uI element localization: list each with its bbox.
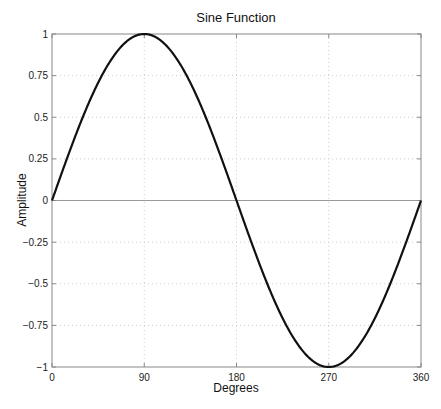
x-tick-label: 270: [320, 372, 337, 383]
y-tick-label: 0.25: [29, 153, 49, 164]
y-tick-label: 0: [42, 195, 48, 206]
x-axis-label: Degrees: [213, 381, 258, 395]
y-tick-label: −1: [37, 362, 49, 373]
y-axis-label: Amplitude: [15, 173, 29, 227]
sine-chart: Sine Function 09018027036010.750.50.250−…: [0, 0, 441, 409]
y-tick-label: 0.75: [29, 70, 49, 81]
y-tick-label: 1: [42, 29, 48, 40]
x-tick-label: 360: [413, 372, 430, 383]
y-tick-label: −0.5: [28, 278, 48, 289]
x-tick-label: 0: [49, 372, 55, 383]
y-tick-label: 0.5: [34, 112, 48, 123]
y-tick-label: −0.25: [23, 237, 49, 248]
y-tick-label: −0.75: [23, 320, 49, 331]
x-tick-label: 90: [139, 372, 151, 383]
chart-title: Sine Function: [196, 10, 276, 25]
